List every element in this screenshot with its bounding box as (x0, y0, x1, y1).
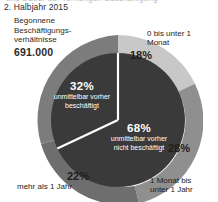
inner-label-32-value: 32% (46, 80, 118, 92)
caption-line-1: Begonnene (14, 16, 88, 26)
label-mehr-als-1-jahr: mehr als 1 Jahr (17, 182, 72, 191)
inner-label-68-text-line2: nicht beschäftigt (96, 144, 182, 152)
label-1-monat-bis-unter-1-jahr-line2: unter 1 Jahr (150, 185, 193, 194)
value-18-percent: 18% (130, 49, 152, 61)
label-0-bis-unter-1-monat-line1: 0 bis unter 1 (147, 29, 191, 38)
inner-label-32-percent: 32% unmittelbar vorher beschäftigt (46, 80, 118, 110)
value-22-percent: 22% (67, 170, 89, 182)
caption-line-2: Beschäftigungs- (14, 26, 88, 36)
inner-label-32-text-line1: unmittelbar vorher (46, 93, 118, 101)
label-0-bis-unter-1-monat-line2: Monat (147, 38, 169, 47)
label-1-monat-bis-unter-1-jahr-line1: 1 Monat bis (150, 176, 191, 185)
label-0-bis-unter-1-monat: 0 bis unter 1 Monat (147, 29, 191, 48)
inner-label-68-value: 68% (96, 122, 182, 134)
page-title: 2. Halbjahr 2015 (4, 2, 68, 12)
label-1-monat-bis-unter-1-jahr: 1 Monat bis unter 1 Jahr (150, 176, 193, 195)
chart-screenshot: und Dauer der vorherigen Beschäftigung 2… (0, 0, 218, 202)
inner-label-68-percent: 68% unmittelbar vorher nicht beschäftigt (96, 122, 182, 152)
inner-label-32-text-line2: beschäftigt (46, 102, 118, 110)
inner-label-68-text-line1: unmittelbar vorher (96, 135, 182, 143)
